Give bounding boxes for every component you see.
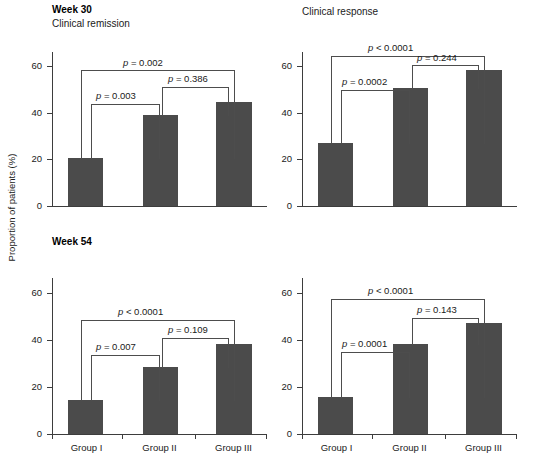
p-value-group-ii-iii: p = 0.244 xyxy=(417,52,457,63)
bracket-group-i-ii xyxy=(341,90,410,144)
y-tick-label-60: 60 xyxy=(16,61,42,71)
x-category-group-ii: Group II xyxy=(378,442,441,453)
p-value-group-i-iii: p < 0.0001 xyxy=(368,285,413,296)
x-tick-0 xyxy=(302,434,303,439)
x-axis-line xyxy=(52,206,267,207)
y-tick-label-60: 60 xyxy=(266,61,292,71)
panel-subtitle: Clinical remission xyxy=(52,18,130,29)
y-tick-label-60: 60 xyxy=(16,288,42,298)
y-tick-label-20: 20 xyxy=(266,382,292,392)
bar-group-i xyxy=(318,397,353,434)
y-tick-0 xyxy=(297,206,302,207)
bracket-group-ii-iii xyxy=(162,87,229,116)
x-tick-0 xyxy=(52,434,53,439)
p-value-group-i-ii: p = 0.0001 xyxy=(342,338,387,349)
p-value-group-i-ii: p = 0.003 xyxy=(96,90,136,101)
y-tick-label-0: 0 xyxy=(16,429,42,439)
bracket-group-i-ii xyxy=(91,104,160,159)
x-category-group-i: Group I xyxy=(305,442,368,453)
plot-area: 60 40 20 0 p < 0.0001 p = 0.007 p = 0.10… xyxy=(52,278,267,436)
x-tick-3 xyxy=(516,434,517,439)
bar-group-i xyxy=(318,143,353,206)
p-value-group-i-iii: p < 0.0001 xyxy=(118,306,163,317)
p-value-group-ii-iii: p = 0.386 xyxy=(168,73,208,84)
x-tick-1 xyxy=(372,434,373,439)
y-tick-label-0: 0 xyxy=(266,201,292,211)
panel-week30-clinical-response: Clinical response 60 40 20 0 p < 0.0001 … xyxy=(250,0,535,232)
y-axis-line xyxy=(302,278,303,435)
p-value-group-i-iii: p = 0.002 xyxy=(123,57,163,68)
x-tick-2 xyxy=(195,434,196,439)
y-tick-60 xyxy=(47,66,52,67)
y-tick-40 xyxy=(47,113,52,114)
p-value-group-ii-iii: p = 0.143 xyxy=(417,304,457,315)
panel-title-week: Week 30 xyxy=(52,4,92,15)
y-tick-40 xyxy=(297,113,302,114)
y-tick-60 xyxy=(47,293,52,294)
bracket-group-i-ii xyxy=(341,352,410,398)
plot-area: 60 40 20 0 p = 0.002 p = 0.003 p = 0.386 xyxy=(52,52,267,208)
y-tick-label-0: 0 xyxy=(16,201,42,211)
bar-group-i xyxy=(68,158,103,206)
bracket-group-ii-iii xyxy=(412,318,479,345)
y-tick-label-40: 40 xyxy=(16,335,42,345)
y-axis-line xyxy=(52,278,53,435)
y-tick-20 xyxy=(297,159,302,160)
y-tick-60 xyxy=(297,66,302,67)
y-tick-label-20: 20 xyxy=(16,154,42,164)
p-value-group-i-ii: p = 0.0002 xyxy=(342,76,387,87)
y-axis-line xyxy=(302,52,303,207)
plot-area: 60 40 20 0 p < 0.0001 p = 0.0001 p = 0.1… xyxy=(302,278,517,436)
panel-week54-clinical-response: 60 40 20 0 p < 0.0001 p = 0.0001 p = 0.1… xyxy=(250,228,535,464)
y-tick-60 xyxy=(297,293,302,294)
x-category-group-iii: Group III xyxy=(452,442,515,453)
y-tick-label-20: 20 xyxy=(16,382,42,392)
x-axis-line xyxy=(302,206,517,207)
y-tick-label-40: 40 xyxy=(266,335,292,345)
bar-group-i xyxy=(68,400,103,434)
p-value-group-ii-iii: p = 0.109 xyxy=(168,324,208,335)
x-tick-1 xyxy=(122,434,123,439)
y-tick-label-40: 40 xyxy=(266,108,292,118)
y-tick-label-0: 0 xyxy=(266,429,292,439)
panel-week54-clinical-remission: Week 54 60 40 20 0 p < 0.0001 p = 0.007 … xyxy=(0,228,270,464)
y-axis-line xyxy=(52,52,53,207)
y-tick-20 xyxy=(47,387,52,388)
p-value-group-i-ii: p = 0.007 xyxy=(96,341,136,352)
y-tick-0 xyxy=(47,206,52,207)
figure-bar-chart-grid: Proportion of patients (%) Week 30 Clini… xyxy=(0,0,535,464)
y-tick-label-20: 20 xyxy=(266,154,292,164)
y-tick-40 xyxy=(297,340,302,341)
x-category-group-ii: Group II xyxy=(128,442,191,453)
bracket-group-i-ii xyxy=(91,355,160,401)
p-value-group-i-iii: p < 0.0001 xyxy=(368,42,413,53)
x-axis-line xyxy=(52,434,267,435)
x-axis-line xyxy=(302,434,517,435)
bracket-group-ii-iii xyxy=(412,65,479,89)
y-tick-20 xyxy=(47,159,52,160)
y-tick-label-40: 40 xyxy=(16,108,42,118)
panel-week30-clinical-remission: Week 30 Clinical remission 60 40 20 0 p … xyxy=(0,0,270,232)
y-tick-20 xyxy=(297,387,302,388)
y-tick-40 xyxy=(47,340,52,341)
y-tick-label-60: 60 xyxy=(266,288,292,298)
plot-area: 60 40 20 0 p < 0.0001 p = 0.0002 p = 0.2… xyxy=(302,52,517,208)
panel-subtitle: Clinical response xyxy=(302,6,378,17)
x-tick-2 xyxy=(445,434,446,439)
x-category-group-i: Group I xyxy=(55,442,118,453)
panel-title-week: Week 54 xyxy=(52,236,92,247)
bracket-group-ii-iii xyxy=(162,338,229,368)
